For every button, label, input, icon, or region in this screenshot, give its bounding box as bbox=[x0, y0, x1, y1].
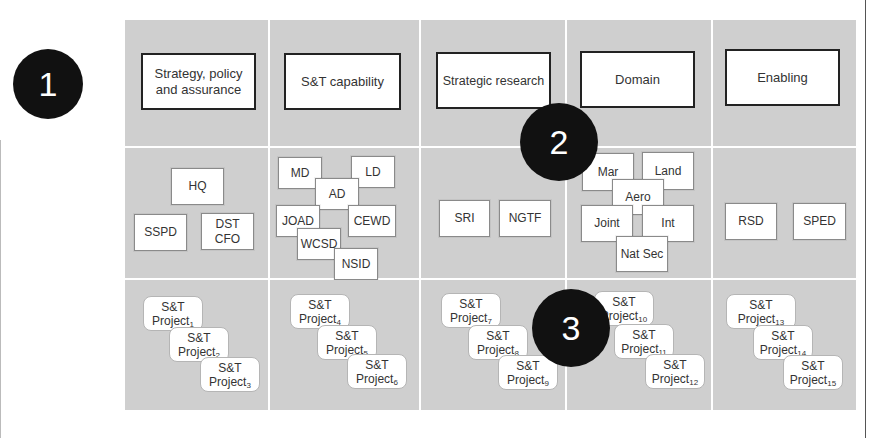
cell-enabling-units: RSD SPED bbox=[713, 148, 856, 278]
cell-enabling-header: Enabling bbox=[713, 20, 856, 146]
project-label: Project bbox=[790, 373, 827, 387]
project-number: 10 bbox=[638, 315, 647, 324]
frame-border-right bbox=[865, 0, 866, 438]
project-label: Project bbox=[152, 314, 189, 328]
cell-capability-units: MD LD AD JOAD CEWD WCSD NSID bbox=[270, 148, 419, 278]
project-label: Project bbox=[738, 312, 775, 326]
project-label: Project bbox=[507, 373, 544, 387]
unit-nat-sec: Nat Sec bbox=[616, 236, 668, 272]
project-name: S&T bbox=[801, 359, 824, 373]
unit-ngtf: NGTF bbox=[499, 200, 551, 237]
organisation-grid: Strategy, policy and assurance S&T capab… bbox=[125, 20, 856, 410]
header-strategy-policy-assurance: Strategy, policy and assurance bbox=[141, 53, 256, 110]
project-label: Project bbox=[356, 372, 393, 386]
step-badge-2: 2 bbox=[520, 103, 598, 181]
header-enabling: Enabling bbox=[725, 49, 840, 106]
project-name: S&T bbox=[632, 328, 655, 342]
unit-nsid: NSID bbox=[334, 248, 378, 280]
header-domain: Domain bbox=[580, 51, 695, 108]
project-name: S&T bbox=[335, 329, 358, 343]
unit-sri: SRI bbox=[439, 200, 490, 237]
unit-sped: SPED bbox=[793, 203, 846, 240]
project-card: S&TProject7 bbox=[441, 293, 501, 328]
cell-strategy-header: Strategy, policy and assurance bbox=[125, 20, 268, 146]
unit-rsd: RSD bbox=[725, 203, 777, 240]
project-name: S&T bbox=[187, 331, 210, 345]
unit-hq: HQ bbox=[171, 168, 224, 205]
project-name: S&T bbox=[486, 329, 509, 343]
badge-label: 2 bbox=[550, 123, 569, 162]
project-name: S&T bbox=[749, 298, 772, 312]
unit-sspd: SSPD bbox=[134, 214, 187, 251]
badge-label: 1 bbox=[39, 65, 58, 104]
cell-domain-units: Mar Land Aero Joint Int Nat Sec bbox=[567, 148, 711, 278]
cell-capability-header: S&T capability bbox=[270, 20, 419, 146]
project-card: S&TProject1 bbox=[143, 296, 203, 331]
project-card: S&TProject12 bbox=[645, 354, 705, 389]
project-label: Project bbox=[450, 311, 487, 325]
unit-label: DST CFO bbox=[213, 217, 243, 247]
project-label: Project bbox=[299, 312, 336, 326]
cell-strategy-units: HQ SSPD DST CFO bbox=[125, 148, 268, 278]
project-number: 12 bbox=[689, 378, 698, 387]
project-name: S&T bbox=[161, 300, 184, 314]
project-card: S&TProject15 bbox=[783, 355, 843, 390]
header-strategic-research: Strategic research bbox=[436, 52, 551, 109]
project-name: S&T bbox=[612, 295, 635, 309]
project-number: 9 bbox=[544, 379, 548, 388]
project-card: S&TProject4 bbox=[290, 294, 350, 329]
cell-capability-projects: S&TProject4 S&TProject5 S&TProject6 bbox=[270, 280, 419, 410]
project-card: S&TProject3 bbox=[200, 357, 260, 392]
project-name: S&T bbox=[308, 298, 331, 312]
project-name: S&T bbox=[663, 358, 686, 372]
project-card: S&TProject13 bbox=[726, 294, 796, 329]
project-number: 15 bbox=[827, 379, 836, 388]
project-name: S&T bbox=[516, 359, 539, 373]
project-card: S&TProject6 bbox=[347, 354, 407, 389]
step-badge-1: 1 bbox=[13, 49, 83, 119]
cell-enabling-projects: S&TProject13 S&TProject14 S&TProject15 bbox=[713, 280, 856, 410]
unit-dst-cfo: DST CFO bbox=[201, 213, 254, 250]
project-name: S&T bbox=[218, 361, 241, 375]
project-number: 3 bbox=[246, 381, 250, 390]
step-badge-3: 3 bbox=[532, 289, 610, 367]
cell-strategy-projects: S&TProject1 S&TProject2 S&TProject3 bbox=[125, 280, 268, 410]
project-label: Project bbox=[652, 372, 689, 386]
frame-border-left bbox=[0, 140, 1, 438]
project-label: Project bbox=[209, 375, 246, 389]
unit-cewd: CEWD bbox=[348, 205, 396, 237]
project-name: S&T bbox=[459, 297, 482, 311]
project-number: 6 bbox=[393, 378, 397, 387]
header-st-capability: S&T capability bbox=[284, 53, 401, 110]
project-name: S&T bbox=[365, 358, 388, 372]
badge-label: 3 bbox=[562, 309, 581, 348]
project-name: S&T bbox=[771, 329, 794, 343]
